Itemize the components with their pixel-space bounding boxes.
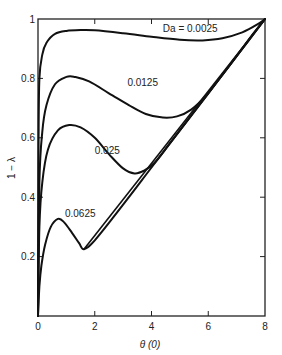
x-tick-label: 4 [149,321,155,332]
x-tick-label: 8 [262,321,268,332]
y-axis-label: 1 − λ [6,157,17,179]
y-tick-label: 0.4 [21,192,35,203]
curve-labels: Da = 0.00250.01250.0250.0625 [65,23,218,218]
asymptote-line [84,19,265,249]
x-tick-label: 0 [35,321,41,332]
curve-label: Da = 0.0025 [163,23,218,34]
x-tick-label: 2 [92,321,98,332]
x-axis-label: θ (0) [140,339,160,350]
y-tick-label: 1 [29,14,35,25]
chart: 024680.20.40.60.81 Da = 0.00250.01250.02… [0,0,282,355]
y-tick-label: 0.8 [21,73,35,84]
y-tick-label: 0.6 [21,132,35,143]
curve-label: 0.025 [95,145,120,156]
curve-label: 0.0125 [127,77,158,88]
curve-label: 0.0625 [65,208,96,219]
y-tick-label: 0.2 [21,251,35,262]
x-tick-label: 6 [205,321,211,332]
curves [38,19,265,316]
